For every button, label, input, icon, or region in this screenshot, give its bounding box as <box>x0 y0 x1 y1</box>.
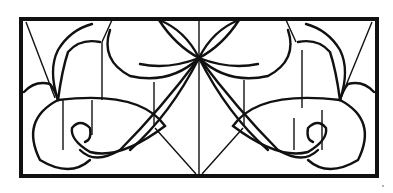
speck <box>382 185 384 187</box>
stained-glass-pattern <box>0 0 393 193</box>
